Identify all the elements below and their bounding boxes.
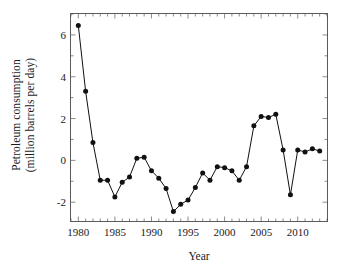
data-point [134, 156, 139, 161]
axis-ticks [71, 14, 327, 221]
y-axis-title-line2: (million barrels per day) [23, 58, 37, 173]
y-axis-tick-label: 0 [40, 154, 66, 166]
data-point [76, 23, 81, 28]
chart-canvas [71, 14, 327, 221]
data-point [112, 194, 117, 199]
data-point [186, 198, 191, 203]
data-point [171, 209, 176, 214]
plot-area [70, 13, 328, 222]
x-axis-tick-labels: 1980198519901995200020052010 [70, 226, 328, 242]
data-point [142, 155, 147, 160]
x-axis-tick-label: 2010 [276, 226, 320, 238]
data-point [259, 114, 264, 119]
y-axis-tick-labels: -20246 [38, 13, 66, 222]
y-axis-tick-label: -2 [40, 196, 66, 208]
data-point [83, 89, 88, 94]
data-point [120, 180, 125, 185]
data-point [303, 150, 308, 155]
data-point [105, 178, 110, 183]
data-point [222, 165, 227, 170]
data-point [237, 178, 242, 183]
data-point [127, 175, 132, 180]
data-point [215, 164, 220, 169]
data-point [149, 168, 154, 173]
data-line [78, 26, 319, 212]
y-axis-title-line1: Petroleum consumption [10, 59, 22, 171]
data-point [266, 115, 271, 120]
data-point [178, 202, 183, 207]
x-axis-title: Year [70, 250, 328, 262]
data-point [251, 123, 256, 128]
data-point [273, 112, 278, 117]
y-axis-tick-label: 4 [40, 71, 66, 83]
data-point [200, 170, 205, 175]
data-point [164, 186, 169, 191]
data-point [310, 146, 315, 151]
data-point [244, 164, 249, 169]
data-point [98, 178, 103, 183]
data-point [317, 148, 322, 153]
data-point [207, 178, 212, 183]
y-axis-tick-label: 2 [40, 113, 66, 125]
data-point [193, 185, 198, 190]
chart-screenshot: Petroleum consumption (million barrels p… [0, 0, 340, 276]
data-point [90, 140, 95, 145]
data-point [229, 168, 234, 173]
y-axis-tick-label: 6 [40, 29, 66, 41]
data-point [156, 176, 161, 181]
data-point [281, 147, 286, 152]
data-markers [76, 23, 322, 214]
data-point [288, 192, 293, 197]
data-point [295, 147, 300, 152]
